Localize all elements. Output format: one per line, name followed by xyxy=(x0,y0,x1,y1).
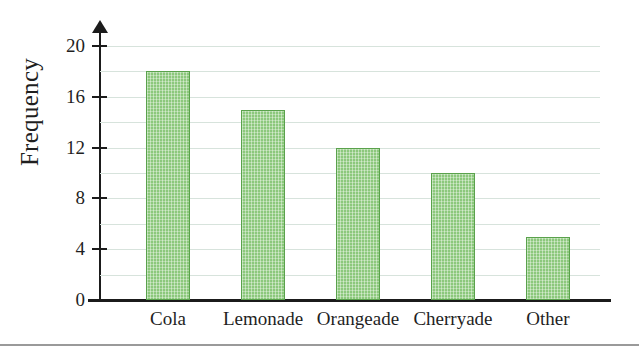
y-axis-tick-label-wrap: 20 xyxy=(45,46,85,47)
x-axis-label-lemonade: Lemonade xyxy=(208,308,318,331)
y-axis-arrow-icon xyxy=(92,20,108,33)
y-axis-tick-label: 4 xyxy=(45,239,85,258)
y-axis-tick-label: 12 xyxy=(45,138,85,157)
y-axis-tick-label-wrap: 16 xyxy=(45,97,85,98)
bar-lemonade xyxy=(241,110,285,301)
x-axis-label-other: Other xyxy=(493,308,603,331)
bar-cherryade xyxy=(431,173,475,300)
gridline xyxy=(100,46,600,47)
y-axis-tick-label: 20 xyxy=(45,36,85,55)
y-axis-tick-label-wrap: 12 xyxy=(45,148,85,149)
y-axis-tick-label: 0 xyxy=(45,290,85,309)
y-axis-tick-label: 16 xyxy=(45,87,85,106)
y-axis-tick-label: 8 xyxy=(45,188,85,207)
y-axis-tick-label-wrap: 4 xyxy=(45,249,85,250)
bar-chart-figure: Frequency 048121620 ColaLemonadeOrangead… xyxy=(0,0,639,358)
y-axis-tick-mark xyxy=(92,299,107,301)
x-axis-label-cherryade: Cherryade xyxy=(398,308,508,331)
bar-cola xyxy=(146,71,190,300)
y-axis-tick-mark xyxy=(92,248,107,250)
y-axis-tick-mark xyxy=(92,96,107,98)
y-axis-tick-mark xyxy=(92,147,107,149)
bar-orangeade xyxy=(336,148,380,300)
bar-other xyxy=(526,237,570,301)
y-axis-tick-label-wrap: 8 xyxy=(45,198,85,199)
y-axis-tick-mark xyxy=(92,197,107,199)
y-axis-tick-label-wrap: 0 xyxy=(45,300,85,301)
y-axis-tick-mark xyxy=(92,45,107,47)
y-axis-title: Frequency xyxy=(16,22,44,202)
x-axis-label-orangeade: Orangeade xyxy=(303,308,413,331)
x-axis-label-cola: Cola xyxy=(113,308,223,331)
bottom-rule-divider xyxy=(0,344,639,346)
